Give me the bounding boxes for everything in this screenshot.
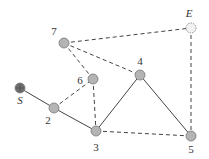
node-label-6: 6 [77,74,83,86]
edge-S-2 [20,88,54,108]
node-6 [88,74,98,84]
edge-6-3 [93,79,96,131]
nodes-group [15,23,196,141]
edge-2-6 [54,79,93,108]
node-label-2: 2 [45,114,51,126]
labels-group: S234567E [17,7,194,155]
node-label-S: S [17,94,23,106]
node-3 [91,126,101,136]
node-label-3: 3 [93,141,99,153]
node-label-E: E [185,7,193,19]
edge-3-5 [96,131,191,136]
edge-2-3 [54,108,96,131]
edge-7-E [64,28,191,43]
node-label-7: 7 [51,25,57,37]
edge-4-5 [140,75,191,136]
graph-diagram: S234567E [0,0,209,159]
node-label-5: 5 [188,143,194,155]
node-E [186,23,196,33]
node-2 [49,103,59,113]
node-label-4: 4 [137,55,143,67]
node-7 [59,38,69,48]
node-5 [186,131,196,141]
edge-7-4 [64,43,140,75]
node-4 [135,70,145,80]
edge-3-4 [96,75,140,131]
